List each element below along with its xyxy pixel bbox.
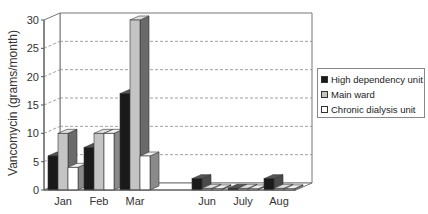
legend-label: Chronic dialysis unit (331, 104, 415, 115)
legend-item-dialysis: Chronic dialysis unit (321, 102, 424, 117)
svg-text:10: 10 (27, 127, 39, 139)
svg-text:Jan: Jan (54, 195, 72, 207)
legend-label: High dependency unit (331, 74, 423, 85)
svg-text:20: 20 (27, 71, 39, 83)
legend-swatch-dialysis (321, 106, 328, 113)
svg-text:5: 5 (33, 156, 39, 168)
legend-swatch-hdu (321, 76, 328, 83)
svg-text:Aug: Aug (269, 195, 289, 207)
svg-text:30: 30 (27, 14, 39, 26)
svg-text:Jun: Jun (198, 195, 216, 207)
legend-swatch-main-ward (321, 91, 328, 98)
y-axis-label: Vancomycin (grams/month) (6, 28, 20, 178)
svg-text:Feb: Feb (90, 195, 109, 207)
legend-item-main-ward: Main ward (321, 87, 424, 102)
svg-text:Mar: Mar (126, 195, 145, 207)
svg-text:0: 0 (33, 184, 39, 196)
legend-label: Main ward (331, 89, 375, 100)
chart-legend: High dependency unit Main ward Chronic d… (317, 68, 425, 118)
svg-text:July: July (233, 195, 253, 207)
svg-text:15: 15 (27, 99, 39, 111)
bar (140, 152, 159, 190)
legend-item-hdu: High dependency unit (321, 72, 424, 87)
svg-text:25: 25 (27, 42, 39, 54)
